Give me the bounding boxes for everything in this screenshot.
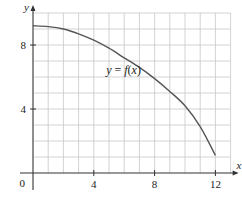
- x-tick-label: 8: [152, 178, 158, 190]
- grid-lines: [33, 13, 231, 173]
- curve-label: y = f(x): [105, 63, 141, 77]
- origin-label: 0: [20, 177, 26, 189]
- x-axis-arrow-icon: [233, 171, 239, 176]
- y-tick-label: 4: [21, 103, 27, 115]
- function-graph: 4812480xy y = f(x): [0, 0, 242, 202]
- x-axis-label: x: [236, 159, 242, 171]
- y-tick-label: 8: [21, 39, 27, 51]
- x-tick-label: 4: [91, 178, 97, 190]
- y-axis-label: y: [23, 1, 29, 13]
- x-tick-label: 12: [210, 178, 221, 190]
- axes: [20, 5, 239, 190]
- y-axis-arrow-icon: [31, 5, 36, 11]
